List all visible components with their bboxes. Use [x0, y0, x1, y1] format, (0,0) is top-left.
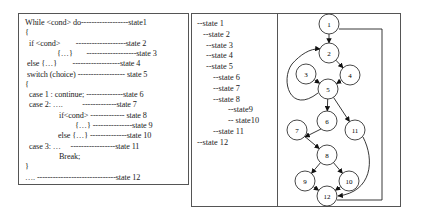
- edge-8-10: [333, 163, 342, 174]
- state-node-12: 12: [317, 186, 337, 206]
- edge-4-5: [336, 80, 341, 83]
- svg-text:2: 2: [327, 50, 331, 58]
- edge-7-8: [305, 136, 320, 148]
- state-node-9: 9: [295, 171, 315, 191]
- state-node-10: 10: [339, 171, 359, 191]
- state-node-6: 6: [317, 111, 337, 131]
- state-node-7: 7: [287, 120, 307, 140]
- svg-text:7: 7: [295, 127, 299, 135]
- state-node-5: 5: [318, 79, 338, 99]
- edge-3-5: [314, 80, 319, 84]
- svg-text:1: 1: [327, 21, 331, 29]
- svg-text:6: 6: [325, 118, 329, 126]
- edge-2-4: [336, 60, 343, 68]
- edge-10-12: [335, 187, 340, 191]
- state-node-1: 1: [319, 14, 339, 34]
- svg-text:10: 10: [346, 178, 354, 186]
- svg-text:9: 9: [303, 178, 307, 186]
- state-node-2: 2: [319, 43, 339, 63]
- svg-text:8: 8: [325, 152, 329, 160]
- state-node-4: 4: [340, 65, 360, 85]
- state-node-8: 8: [317, 145, 337, 165]
- state-node-11: 11: [345, 120, 365, 140]
- edge-9-12: [313, 187, 318, 191]
- state-node-3: 3: [296, 64, 316, 84]
- svg-text:5: 5: [326, 86, 330, 94]
- state-graph: 123456711891012: [0, 0, 421, 215]
- edge-8-9: [311, 163, 320, 174]
- svg-text:3: 3: [304, 71, 308, 79]
- svg-text:11: 11: [352, 127, 359, 135]
- svg-text:12: 12: [324, 193, 332, 201]
- svg-text:4: 4: [348, 72, 352, 80]
